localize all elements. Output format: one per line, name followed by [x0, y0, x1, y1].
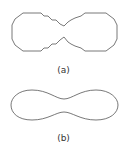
diagram-canvas [0, 0, 127, 155]
figure-b-smooth-dumbbell [11, 90, 118, 120]
figure-b-label: (b) [0, 133, 127, 143]
figure-a-polygonal-dumbbell [12, 13, 117, 51]
figure-a-label: (a) [0, 65, 127, 75]
